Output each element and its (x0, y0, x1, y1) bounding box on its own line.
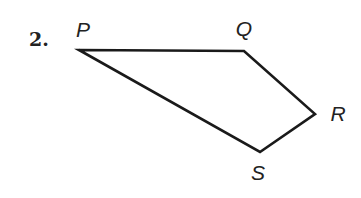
quadrilateral-figure: 2. P Q R S (0, 0, 361, 198)
vertex-label-q: Q (236, 17, 252, 40)
problem-number: 2. (29, 28, 49, 50)
diagram-canvas: 2. P Q R S (0, 0, 361, 198)
vertex-label-s: S (251, 161, 265, 184)
quadrilateral-pqrs (79, 50, 315, 152)
vertex-label-p: P (76, 18, 90, 41)
vertex-label-r: R (330, 102, 345, 125)
